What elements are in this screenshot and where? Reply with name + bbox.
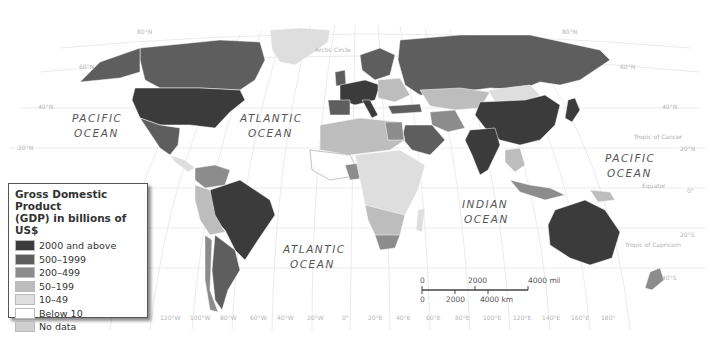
legend-item-below-10: Below 10: [15, 307, 141, 321]
gdp-legend: Gross Domestic Product (GDP) in billions…: [8, 183, 148, 318]
svg-text:80°W: 80°W: [220, 314, 237, 321]
svg-text:0: 0: [420, 276, 425, 285]
legend-swatch: [15, 267, 35, 278]
svg-text:80°E: 80°E: [455, 314, 470, 321]
lat-label: 60°N: [79, 63, 94, 70]
india: [465, 128, 500, 175]
svg-text:2000: 2000: [468, 276, 487, 285]
ocean-label-pacific-east: PACIFIC OCEAN: [605, 152, 655, 179]
lat-label: 20°N: [680, 145, 695, 152]
svg-text:0: 0: [420, 295, 425, 304]
svg-text:4000 miles: 4000 miles: [528, 276, 560, 285]
ocean-label-atlantic-north: ATLANTIC OCEAN: [239, 112, 303, 139]
central-america: [170, 155, 195, 172]
lat-label: 40°N: [662, 103, 677, 110]
svg-text:60°E: 60°E: [426, 314, 441, 321]
scandinavia: [360, 48, 395, 80]
svg-text:4000 km: 4000 km: [480, 295, 513, 304]
svg-text:PACIFIC: PACIFIC: [72, 112, 122, 124]
southeast-asia: [505, 148, 525, 172]
colombia-venezuela: [195, 165, 230, 188]
svg-text:PACIFIC: PACIFIC: [605, 152, 655, 164]
lat-label: 20°N: [18, 144, 33, 151]
lat-label: 40°S: [662, 274, 677, 281]
legend-item-500-1999: 500–1999: [15, 253, 141, 267]
uk: [335, 70, 346, 86]
lat-label: 40°N: [38, 103, 53, 110]
lat-label: 80°N: [137, 28, 152, 35]
svg-text:60°W: 60°W: [250, 314, 267, 321]
italy: [362, 100, 378, 118]
svg-text:OCEAN: OCEAN: [607, 167, 652, 179]
svg-text:160°E: 160°E: [571, 314, 589, 321]
svg-text:100°E: 100°E: [483, 314, 501, 321]
svg-text:120°W: 120°W: [160, 314, 180, 321]
svg-text:180°: 180°: [601, 314, 615, 321]
tropic-of-capricorn-label: Tropic of Capricorn: [624, 241, 681, 249]
lat-label: 60°N: [620, 63, 635, 70]
svg-text:20°E: 20°E: [368, 314, 383, 321]
legend-swatch: [15, 294, 35, 305]
svg-text:40°E: 40°E: [396, 314, 411, 321]
legend-item-200-499: 200–499: [15, 266, 141, 280]
legend-item-2000-above: 2000 and above: [15, 239, 141, 253]
legend-swatch: [15, 254, 35, 265]
japan: [565, 98, 580, 122]
legend-item-no-data: No data: [15, 320, 141, 334]
lat-label: 0°: [687, 187, 694, 194]
legend-swatch: [15, 240, 35, 251]
svg-text:120°E: 120°E: [513, 314, 531, 321]
lat-label: 80°N: [562, 28, 577, 35]
saudi-arabia: [402, 125, 445, 155]
svg-text:140°E: 140°E: [542, 314, 560, 321]
scale-bar: 0 2000 4000 miles 0 2000 4000 km: [420, 276, 560, 306]
turkey: [388, 104, 422, 114]
equator-label: Equator: [642, 182, 666, 190]
svg-text:INDIAN: INDIAN: [462, 198, 508, 210]
ocean-label-atlantic-south: ATLANTIC OCEAN: [282, 243, 346, 270]
canada: [140, 40, 265, 90]
legend-swatch: [15, 281, 35, 292]
australia: [548, 200, 620, 265]
central-africa: [355, 150, 425, 220]
legend-title: Gross Domestic Product (GDP) in billions…: [15, 188, 141, 236]
indonesia: [510, 180, 565, 200]
svg-text:20°W: 20°W: [307, 314, 324, 321]
papua-new-guinea: [590, 190, 615, 202]
legend-item-50-199: 50–199: [15, 280, 141, 294]
ocean-label-pacific-west: PACIFIC OCEAN: [72, 112, 122, 139]
svg-text:OCEAN: OCEAN: [464, 213, 509, 225]
svg-text:100°W: 100°W: [190, 314, 210, 321]
svg-text:ATLANTIC: ATLANTIC: [282, 243, 346, 255]
svg-text:OCEAN: OCEAN: [74, 127, 119, 139]
svg-text:0°: 0°: [342, 314, 349, 321]
svg-text:2000: 2000: [446, 295, 465, 304]
svg-text:OCEAN: OCEAN: [290, 258, 335, 270]
egypt: [385, 122, 404, 140]
legend-swatch: [15, 321, 35, 332]
legend-swatch: [15, 308, 35, 319]
svg-text:40°W: 40°W: [277, 314, 294, 321]
tropic-of-cancer-label: Tropic of Cancer: [633, 133, 683, 141]
legend-item-10-49: 10–49: [15, 293, 141, 307]
svg-text:ATLANTIC: ATLANTIC: [239, 112, 303, 124]
ocean-label-indian: INDIAN OCEAN: [462, 198, 509, 225]
russia: [398, 35, 610, 95]
longitude-labels: 120°W 100°W 80°W 60°W 40°W 20°W 0° 20°E …: [160, 314, 615, 321]
south-africa: [375, 235, 400, 250]
spain: [328, 100, 350, 115]
lat-label: 20°S: [680, 231, 695, 238]
svg-text:OCEAN: OCEAN: [248, 127, 293, 139]
arctic-circle-label: Arctic Circle: [315, 46, 351, 53]
